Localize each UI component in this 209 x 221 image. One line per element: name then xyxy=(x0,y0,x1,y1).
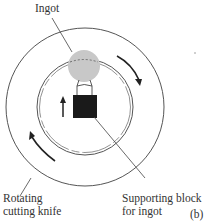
knife-label-line1: Rotating xyxy=(3,192,43,205)
ingot-label: Ingot xyxy=(35,2,59,15)
ingot-leader xyxy=(52,18,72,52)
block-label-line1: Supporting block xyxy=(122,192,202,205)
rotation-arrow-left xyxy=(32,137,55,161)
diagram-canvas xyxy=(0,0,209,221)
block-leader xyxy=(94,117,145,178)
knife-label-line2: cutting knife xyxy=(3,205,61,218)
rotation-arrow-right xyxy=(117,56,139,80)
up-arrow-icon xyxy=(60,96,66,103)
ingot-circle xyxy=(68,50,100,82)
panel-label: (b) xyxy=(190,208,203,221)
supporting-block xyxy=(73,95,97,118)
holder-neck xyxy=(77,80,92,95)
block-label-line2: for ingot xyxy=(122,205,162,218)
